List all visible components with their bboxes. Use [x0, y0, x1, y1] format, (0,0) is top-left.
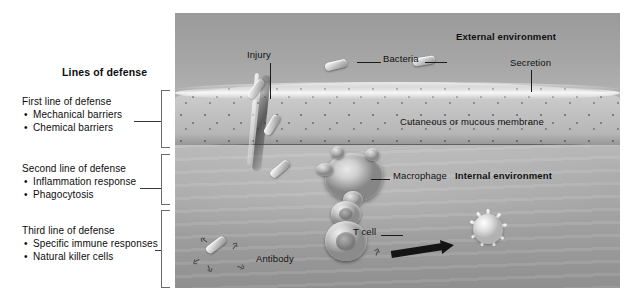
defense-group-third: Third line of defense Specific immune re… — [22, 224, 158, 263]
natural-killer-cell-icon — [461, 201, 515, 255]
leader-bacteria-right — [425, 62, 447, 63]
defense-group-first: First line of defense Mechanical barrier… — [22, 95, 122, 134]
leader-secretion — [531, 70, 532, 92]
leader-macrophage — [371, 179, 390, 180]
label-bacteria: Bacteria — [383, 53, 419, 64]
immune-defense-illustration: Injury Bacteria External environment Sec… — [175, 13, 620, 288]
label-injury: Injury — [247, 49, 271, 60]
group-title-first: First line of defense — [22, 95, 122, 108]
label-external-environment: External environment — [456, 31, 556, 42]
leader-bacteria-left — [357, 62, 381, 63]
label-antibody: Antibody — [256, 253, 294, 264]
defense-group-second: Second line of defense Inflammation resp… — [22, 162, 136, 201]
group-title-third: Third line of defense — [22, 224, 158, 237]
bracket-second-line — [161, 154, 170, 205]
process-arrow-head — [440, 238, 455, 254]
group-item-inflammation-response: Inflammation response — [22, 175, 136, 188]
leader-injury — [270, 63, 271, 99]
macrophage-cell-icon — [325, 153, 383, 201]
label-internal-environment: Internal environment — [455, 170, 552, 181]
group-item-natural-killer-cells: Natural killer cells — [22, 250, 158, 263]
panel-heading: Lines of defense — [62, 66, 147, 78]
group-title-second: Second line of defense — [22, 162, 136, 175]
label-secretion: Secretion — [510, 57, 551, 68]
leader-line-first — [134, 121, 161, 122]
bracket-third-line — [161, 210, 170, 288]
leader-line-second — [140, 188, 161, 189]
label-t-cell: T cell — [353, 226, 376, 237]
bracket-first-line — [161, 90, 170, 148]
group-item-mechanical-barriers: Mechanical barriers — [22, 108, 122, 121]
group-item-chemical-barriers: Chemical barriers — [22, 121, 122, 134]
leader-t-cell — [381, 235, 403, 236]
secretion-layer — [175, 87, 620, 99]
figure-root: Lines of defense First line of defense M… — [0, 0, 633, 301]
group-item-phagocytosis: Phagocytosis — [22, 188, 136, 201]
group-item-specific-immune-responses: Specific immune responses — [22, 237, 158, 250]
label-membrane: Cutaneous or mucous membrane — [400, 116, 544, 127]
label-macrophage: Macrophage — [393, 170, 447, 181]
